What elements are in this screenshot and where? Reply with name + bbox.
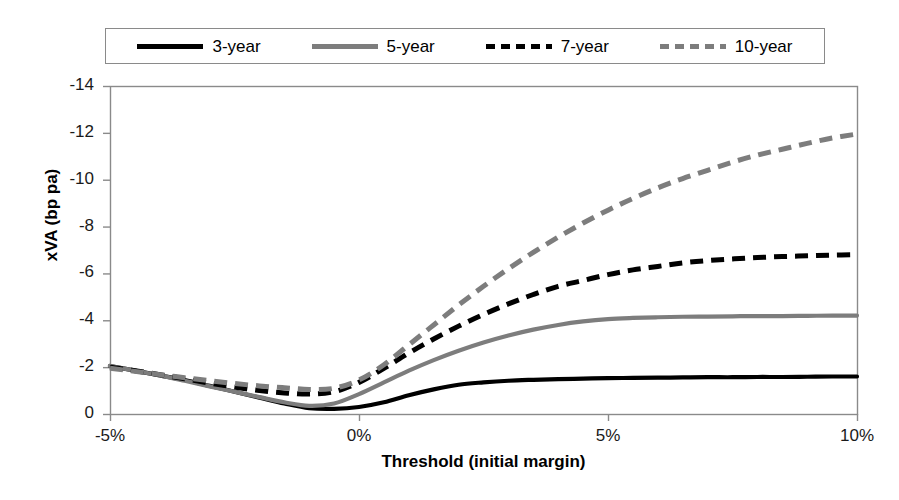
- x-tick-label: 0%: [309, 426, 409, 446]
- y-tick-label: -14: [32, 75, 94, 95]
- series-line-10-year: [110, 134, 857, 389]
- series-line-5-year: [110, 316, 857, 406]
- chart-figure: 3-year 5-year 7-year 10-year -14-12-10-8…: [0, 0, 899, 500]
- x-tick-label: -5%: [60, 426, 160, 446]
- axis-lines: [111, 87, 858, 415]
- x-tick-label: 5%: [558, 426, 658, 446]
- plot-area: [0, 0, 899, 500]
- x-axis-title: Threshold (initial margin): [110, 452, 857, 472]
- axis-ticks: [103, 87, 858, 422]
- plot-frame: [111, 87, 858, 415]
- y-tick-label: 0: [32, 403, 94, 423]
- y-tick-label: -2: [32, 356, 94, 376]
- data-series-layer: [110, 134, 857, 409]
- y-axis-title: xVA (bp pa): [42, 115, 62, 315]
- x-tick-label: 10%: [807, 426, 899, 446]
- series-line-7-year: [110, 255, 857, 394]
